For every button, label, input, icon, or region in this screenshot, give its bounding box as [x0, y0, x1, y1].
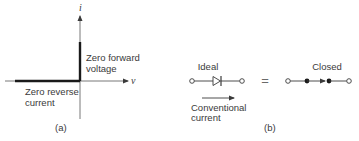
- panel-b-circuit: Ideal Conventional current = Closed (b: [190, 61, 352, 133]
- closed-label: Closed: [312, 61, 342, 72]
- reverse-label-line1: Zero reverse: [25, 86, 79, 97]
- closed-switch-icon: [286, 79, 352, 84]
- panel-a-graph: i v Zero forward voltage Zero reverse cu…: [5, 2, 140, 133]
- panel-b-caption: (b): [264, 122, 276, 133]
- current-label-line2: current: [191, 112, 221, 123]
- i-axis-label: i: [79, 2, 82, 13]
- reverse-label-line2: current: [25, 97, 55, 108]
- ideal-label: Ideal: [198, 61, 219, 72]
- v-axis-label: v: [131, 75, 136, 86]
- forward-label-line2: voltage: [86, 63, 117, 74]
- panel-a-caption: (a): [55, 122, 67, 133]
- diode-symbol-icon: [190, 76, 245, 86]
- equals-sign: =: [261, 73, 269, 88]
- forward-label-line1: Zero forward: [86, 52, 140, 63]
- diode-characteristic-figure: i v Zero forward voltage Zero reverse cu…: [0, 0, 359, 141]
